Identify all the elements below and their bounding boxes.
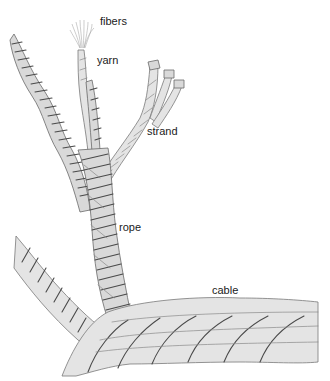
cable-main xyxy=(62,298,318,376)
rope-construction-diagram xyxy=(0,0,330,381)
label-cable: cable xyxy=(212,285,238,296)
label-fibers: fibers xyxy=(100,16,127,27)
rope-main xyxy=(78,148,132,320)
fibers-tuft xyxy=(70,20,94,48)
label-rope: rope xyxy=(119,222,141,233)
label-yarn: yarn xyxy=(97,55,118,66)
label-strand: strand xyxy=(147,126,178,137)
